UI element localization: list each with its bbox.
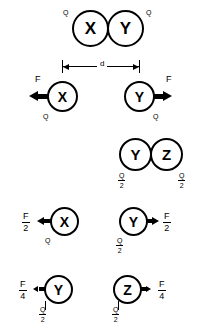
fraction-bar — [118, 180, 125, 181]
row4-left-force-arrowhead — [37, 217, 44, 225]
row5-left-force-numerator: F — [19, 280, 27, 289]
row5-right-force-arrowhead — [146, 286, 151, 292]
row5-left-force-fraction: F 4 — [19, 280, 27, 301]
row4-right-charge-numerator: Q — [116, 237, 123, 244]
fraction-bar — [116, 245, 123, 246]
row3-right-charge-numerator: Q — [178, 172, 185, 179]
row5-left-charge-numerator: Q — [39, 306, 46, 313]
row2-sphere-x: X — [47, 81, 78, 112]
row3-left-charge-fraction: Q 2 — [118, 172, 125, 189]
row3-left-charge-denominator: 2 — [119, 182, 125, 189]
row4-right-force-numerator: F — [163, 212, 171, 221]
row3-sphere-z: Z — [150, 138, 183, 171]
row2-left-force-arrowhead — [29, 91, 38, 101]
row4-left-force-numerator: F — [22, 212, 30, 221]
row4-left-force-fraction: F 2 — [22, 212, 30, 233]
row5-left-charge-fraction: Q 2 — [39, 306, 46, 323]
row2-left-force-label: F — [35, 75, 41, 84]
row2-left-charge-label: Q — [43, 113, 48, 120]
row2-right-force-arrowhead — [163, 91, 172, 101]
fraction-bar — [178, 180, 185, 181]
row3-right-charge-denominator: 2 — [179, 182, 185, 189]
row5-right-charge-numerator: Q — [112, 306, 119, 313]
row4-sphere-y: Y — [119, 207, 148, 236]
row5-left-force-arrowhead — [33, 286, 38, 292]
row5-right-force-numerator: F — [158, 280, 166, 289]
dimension-arrowhead-left — [63, 64, 69, 70]
row4-right-charge-fraction: Q 2 — [116, 237, 123, 254]
row4-right-force-fraction: F 2 — [163, 212, 171, 233]
dimension-arrowhead-right — [133, 64, 139, 70]
row5-right-force-fraction: F 4 — [158, 280, 166, 301]
row2-sphere-y: Y — [124, 81, 155, 112]
row5-right-charge-denominator: 2 — [113, 316, 119, 323]
fraction-bar — [112, 314, 119, 315]
row4-left-force-denominator: 2 — [22, 224, 29, 233]
fraction-bar — [39, 314, 46, 315]
row3-sphere-y: Y — [119, 138, 152, 171]
row4-right-force-denominator: 2 — [163, 224, 170, 233]
physics-force-diagram: Q X Y Q d F X Q Y F Q Y Z Q 2 Q 2 F 2 X … — [0, 0, 201, 328]
row5-sphere-z: Z — [113, 275, 142, 304]
row5-right-force-denominator: 4 — [158, 292, 165, 301]
row1-left-charge-label: Q — [63, 9, 68, 16]
row1-right-charge-label: Q — [146, 9, 151, 16]
row5-left-charge-denominator: 2 — [40, 316, 46, 323]
row1-sphere-x: X — [72, 10, 109, 47]
row2-right-charge-label: Q — [153, 113, 158, 120]
dimension-tick-right — [139, 60, 140, 73]
row5-right-charge-fraction: Q 2 — [112, 306, 119, 323]
row2-right-force-label: F — [166, 75, 172, 84]
row3-right-charge-fraction: Q 2 — [178, 172, 185, 189]
row4-right-charge-denominator: 2 — [117, 247, 123, 254]
row5-sphere-y: Y — [44, 275, 73, 304]
row5-left-force-denominator: 4 — [19, 292, 26, 301]
row4-right-force-arrowhead — [152, 217, 159, 225]
row3-left-charge-numerator: Q — [118, 172, 125, 179]
distance-label-d: d — [97, 60, 107, 68]
row1-sphere-y: Y — [107, 10, 144, 47]
row4-left-charge-label: Q — [45, 237, 50, 244]
row4-sphere-x: X — [50, 207, 79, 236]
